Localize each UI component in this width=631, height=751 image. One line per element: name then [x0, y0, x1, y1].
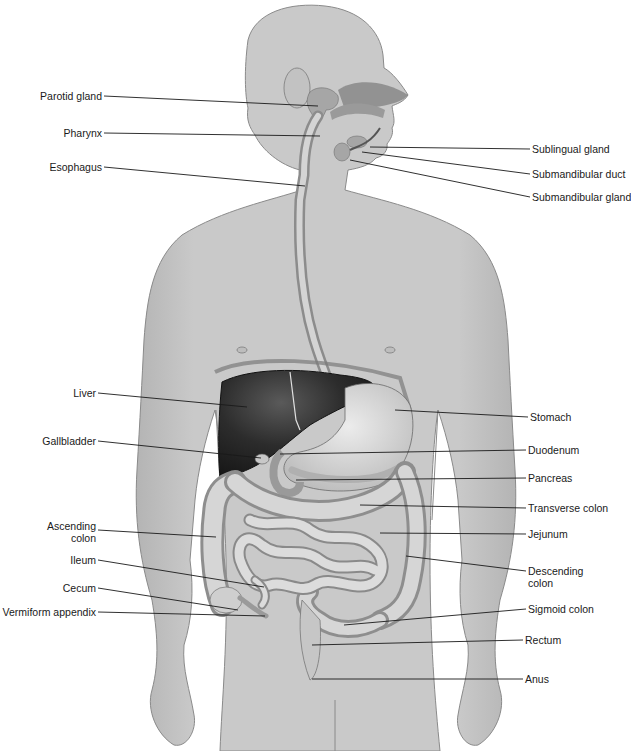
label-cecum: Cecum: [63, 582, 96, 594]
label-sublingual-gland: Sublingual gland: [532, 143, 610, 155]
label-duodenum: Duodenum: [528, 444, 579, 456]
leader-esophagus: [104, 167, 305, 186]
leader-submandibular-gland: [350, 160, 530, 197]
label-jejunum: Jejunum: [528, 528, 568, 540]
cecum-shape: [210, 587, 242, 613]
label-submandibular-duct: Submandibular duct: [532, 168, 625, 180]
label-parotid-gland: Parotid gland: [40, 90, 102, 102]
label-submandibular-gland: Submandibular gland: [532, 191, 631, 203]
leader-submandibular-duct: [362, 152, 530, 174]
label-rectum: Rectum: [525, 634, 561, 646]
label-anus: Anus: [525, 673, 549, 685]
label-stomach: Stomach: [530, 411, 571, 423]
label-vermiform-appendix: Vermiform appendix: [3, 606, 96, 618]
label-transverse-colon: Transverse colon: [528, 502, 608, 514]
leader-sublingual-gland: [370, 147, 530, 149]
label-sigmoid-colon: Sigmoid colon: [528, 603, 594, 615]
label-ileum: Ileum: [70, 554, 96, 566]
label-gallbladder: Gallbladder: [42, 435, 96, 447]
gallbladder-shape: [255, 454, 269, 464]
submandibular-gland-shape: [334, 143, 350, 161]
label-esophagus: Esophagus: [49, 161, 102, 173]
label-descending-colon: Descending colon: [528, 565, 583, 589]
label-ascending-colon: Ascending colon: [47, 520, 96, 544]
label-liver: Liver: [73, 387, 96, 399]
label-pharynx: Pharynx: [63, 127, 102, 139]
label-pancreas: Pancreas: [528, 472, 572, 484]
